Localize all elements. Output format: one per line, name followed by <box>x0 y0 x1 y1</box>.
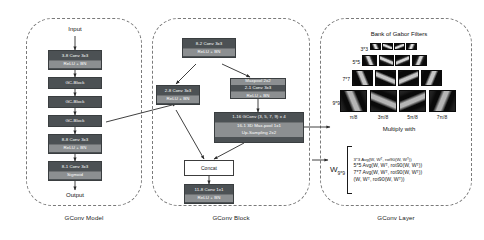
block-top-conv-title: 8-2 Conv 3x3 <box>183 40 235 48</box>
model-output-label: Output <box>45 192 105 198</box>
block-gconv-line2: 16-1 3D Max-pool 1x1 <box>215 122 303 130</box>
block-bottom-conv-title: 11-8 Conv 1x1 <box>185 186 233 194</box>
gabor-angle-label-3: 7π/8 <box>429 114 456 120</box>
model-block-3: GC-Block <box>48 115 102 127</box>
equation-lhs: W9*9 <box>330 165 345 176</box>
block-maxpool-line3: ReLU + BN <box>231 91 285 99</box>
block-bottom-conv-sub: ReLU + BN <box>185 194 233 202</box>
block-maxpool: Maxpool 2x2 2-1 Conv 3x3 ReLU + BN <box>230 78 286 99</box>
block-gconv-line3: Up-Sampling 2x2 <box>215 130 303 137</box>
gabor-filter-3x3-3pi8 <box>382 43 393 50</box>
gabor-filter-7x7-pi8 <box>352 70 373 86</box>
model-block-2: GC-Block <box>48 96 102 108</box>
gabor-filter-7x7-5pi8 <box>398 70 419 86</box>
gabor-filter-9x9-7pi8 <box>429 90 456 112</box>
block-maxpool-line1: Maxpool 2x2 <box>231 78 285 85</box>
equation-line-2: 7*7 Avg(W, Wᵀ, rot90(W, Wᵀ)) <box>354 170 423 176</box>
gabor-size-label-3: 9*9 <box>324 100 340 106</box>
gabor-filter-7x7-3pi8 <box>375 70 396 86</box>
block-concat-title: Concat <box>185 164 233 172</box>
model-block-0-sub: ReLU + BN <box>49 60 101 68</box>
gabor-filter-9x9-5pi8 <box>399 90 426 112</box>
block-left-conv-title: 2-8 Conv 3x3 <box>157 87 199 95</box>
model-block-4-sub: ReLU + BN <box>49 144 101 152</box>
block-bottom-conv: 11-8 Conv 1x1 ReLU + BN <box>184 184 234 204</box>
model-block-3-title: GC-Block <box>49 117 101 125</box>
model-block-4-title: 8-8 Conv 3x3 <box>49 136 101 144</box>
gabor-angle-label-0: π/8 <box>340 114 367 120</box>
equation-brace <box>347 146 352 194</box>
gabor-bank-title: Bank of Gabor Filters <box>336 31 462 37</box>
model-block-5: 8-1 Conv 3x3 Sigmoid <box>48 161 102 181</box>
equation-lines: 3*3 Avg(W, Wᵀ, rot90(W, Wᵀ)) 5*5 Avg(W, … <box>354 157 423 184</box>
block-top-conv-sub: ReLU + BN <box>183 48 235 56</box>
weight-equation: W9*9 3*3 Avg(W, Wᵀ, rot90(W, Wᵀ)) 5*5 Av… <box>330 146 470 194</box>
block-gconv-core: 1-16 GConv (3, 5, 7, 9) x 4 16-1 3D Max-… <box>214 112 304 143</box>
equation-line-1: 5*5 Avg(W, Wᵀ, rot90(W, Wᵀ)) <box>354 163 423 169</box>
gabor-filter-9x9-pi8 <box>340 90 367 112</box>
model-block-5-sub: Sigmoid <box>49 171 101 179</box>
block-top-conv: 8-2 Conv 3x3 ReLU + BN <box>182 38 236 58</box>
model-input-label: Input <box>45 26 105 32</box>
gabor-size-label-2: 7*7 <box>334 76 350 82</box>
gabor-row-7x7 <box>352 70 442 86</box>
equation-lhs-subscript: 9*9 <box>338 169 346 175</box>
gabor-row-9x9 <box>340 90 456 112</box>
block-gconv-line1: 1-16 GConv (3, 5, 7, 9) x 4 <box>215 113 303 122</box>
gabor-size-label-1: 5*5 <box>344 59 360 65</box>
equation-line-3: (W, Wᵀ, rot90(W, Wᵀ)) <box>354 177 423 183</box>
gabor-filter-5x5-pi8 <box>362 55 377 66</box>
model-block-5-title: 8-1 Conv 3x3 <box>49 163 101 171</box>
gabor-filter-9x9-3pi8 <box>370 90 397 112</box>
diagram-root: GConv Model GConv Block GConv Layer <box>0 0 484 240</box>
model-block-1: GC-Block <box>48 77 102 89</box>
gabor-size-label-0: 3*3 <box>352 46 368 52</box>
gabor-filter-5x5-5pi8 <box>395 55 410 66</box>
gabor-filter-7x7-7pi8 <box>421 70 442 86</box>
block-left-conv-sub: ReLU + BN <box>157 95 199 103</box>
gabor-filter-5x5-3pi8 <box>379 55 394 66</box>
block-maxpool-line2: 2-1 Conv 3x3 <box>231 85 285 92</box>
gabor-filter-3x3-pi8 <box>370 43 381 50</box>
gabor-row-5x5 <box>362 55 427 66</box>
block-left-conv: 2-8 Conv 3x3 ReLU + BN <box>156 85 200 105</box>
gabor-angle-label-1: 3π/8 <box>370 114 397 120</box>
equation-lhs-symbol: W <box>330 165 338 174</box>
model-block-4: 8-8 Conv 3x3 ReLU + BN <box>48 134 102 154</box>
gabor-filter-3x3-5pi8 <box>394 43 405 50</box>
gabor-filter-3x3-7pi8 <box>406 43 417 50</box>
model-block-2-title: GC-Block <box>49 98 101 106</box>
model-block-0-title: 3-8 Conv 3x3 <box>49 52 101 60</box>
multiply-with-label: Multiply with <box>336 126 462 132</box>
gabor-angle-label-2: 5π/8 <box>399 114 426 120</box>
gabor-filter-5x5-7pi8 <box>412 55 427 66</box>
gabor-row-3x3 <box>370 43 417 50</box>
block-concat: Concat <box>184 160 234 176</box>
model-block-0: 3-8 Conv 3x3 ReLU + BN <box>48 50 102 70</box>
model-block-1-title: GC-Block <box>49 79 101 87</box>
